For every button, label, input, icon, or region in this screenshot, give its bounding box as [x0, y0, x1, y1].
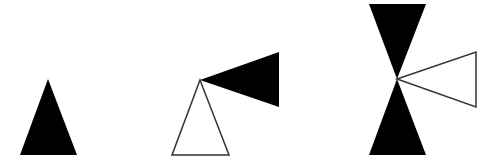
filled-triangle-bottom: [369, 79, 426, 155]
triangle-sequence-diagram: [0, 0, 493, 166]
figure-1: [20, 79, 77, 155]
filled-triangle-top: [369, 4, 426, 79]
filled-triangle: [20, 79, 77, 155]
figure-3: [369, 4, 476, 155]
outline-triangle: [397, 52, 476, 107]
figure-2: [172, 52, 279, 155]
outline-triangle: [172, 80, 229, 155]
filled-triangle: [200, 52, 279, 107]
